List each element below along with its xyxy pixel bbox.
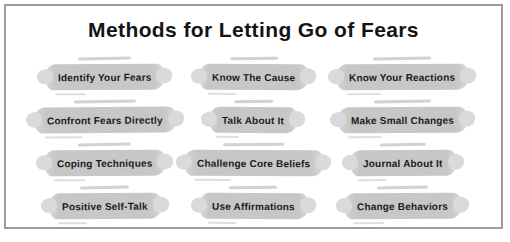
- method-label: Know Your Reactions: [349, 71, 455, 82]
- method-pill: Know The Cause: [199, 63, 309, 90]
- methods-grid: Identify Your Fears Know The Cause Know …: [30, 55, 477, 227]
- method-pill: Use Affirmations: [199, 192, 308, 219]
- method-label: Journal About It: [363, 157, 443, 168]
- method-label: Use Affirmations: [212, 200, 295, 211]
- method-pill: Confront Fears Directly: [34, 106, 176, 133]
- method-pill: Make Small Changes: [338, 106, 467, 132]
- method-label: Coping Techniques: [57, 157, 153, 169]
- frame-border: Methods for Letting Go of Fears Identify…: [4, 4, 503, 229]
- method-label: Identify Your Fears: [58, 71, 152, 83]
- page-title: Methods for Letting Go of Fears: [6, 18, 501, 42]
- method-pill: Change Behaviors: [344, 192, 461, 218]
- method-label: Talk About It: [222, 114, 284, 125]
- method-pill: Positive Self-Talk: [49, 192, 161, 219]
- method-pill: Know Your Reactions: [336, 63, 468, 89]
- infographic: Methods for Letting Go of Fears Identify…: [0, 0, 510, 242]
- method-label: Know The Cause: [212, 71, 295, 82]
- method-label: Challenge Core Beliefs: [197, 157, 310, 169]
- method-pill: Journal About It: [350, 149, 456, 175]
- method-pill: Challenge Core Beliefs: [184, 149, 323, 176]
- method-pill: Talk About It: [209, 106, 297, 132]
- method-pill: Identify Your Fears: [45, 63, 165, 90]
- method-pill: Coping Techniques: [44, 149, 166, 176]
- method-label: Make Small Changes: [351, 114, 454, 125]
- method-label: Change Behaviors: [357, 200, 448, 211]
- method-label: Positive Self-Talk: [62, 200, 148, 212]
- method-label: Confront Fears Directly: [47, 114, 163, 126]
